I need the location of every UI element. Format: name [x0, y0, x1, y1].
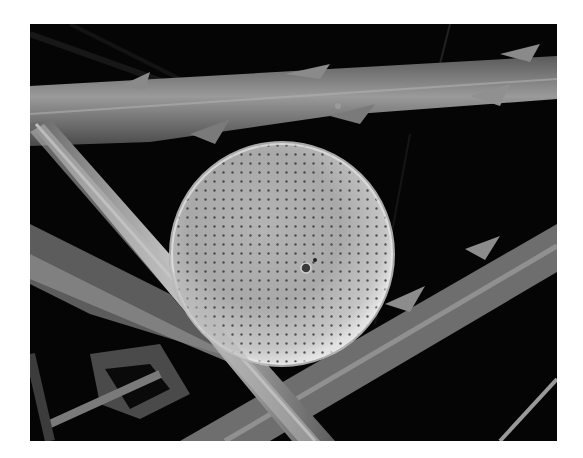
- central-pore: [301, 263, 311, 273]
- micrograph-scene: [30, 24, 557, 441]
- sem-micrograph: [30, 24, 557, 441]
